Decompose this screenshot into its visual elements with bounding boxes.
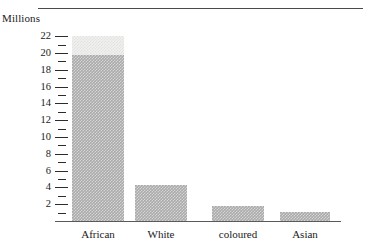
y-axis-tick-label: 12 <box>27 115 51 125</box>
x-axis-category-label: Asian <box>266 228 344 241</box>
y-axis-major-tick <box>55 187 68 188</box>
y-axis-tick-label: 8 <box>27 149 51 159</box>
bar-fill <box>72 55 124 221</box>
y-axis-major-tick <box>55 204 68 205</box>
bar <box>72 36 124 221</box>
y-axis-tick-label: 20 <box>27 48 51 58</box>
y-axis-tick-label: 22 <box>27 31 51 41</box>
y-axis-minor-tick <box>58 45 66 46</box>
bar-fill-light-cap <box>72 36 124 54</box>
x-axis-category-label: White <box>121 228 201 241</box>
bar <box>280 212 330 221</box>
y-axis-minor-tick <box>58 179 66 180</box>
y-axis-major-tick <box>55 53 68 54</box>
y-axis-major-tick <box>55 36 68 37</box>
bar-chart-plot-area: 246810121416182022 AfricanWhitecolouredA… <box>0 0 376 251</box>
y-axis-tick-label: 18 <box>27 65 51 75</box>
bar-fill <box>280 212 330 221</box>
y-axis-tick-label: 6 <box>27 166 51 176</box>
y-axis-minor-tick <box>58 196 66 197</box>
y-axis-minor-tick <box>58 129 66 130</box>
y-axis-tick-label: 10 <box>27 132 51 142</box>
y-axis-major-tick <box>55 154 68 155</box>
y-axis-major-tick <box>55 103 68 104</box>
y-axis-tick-label: 4 <box>27 182 51 192</box>
y-axis-tick-label: 2 <box>27 199 51 209</box>
x-axis-line <box>55 221 341 222</box>
y-axis-minor-tick <box>58 213 66 214</box>
bar-fill <box>212 206 264 221</box>
y-axis-major-tick <box>55 120 68 121</box>
bar-fill <box>135 185 187 221</box>
bar <box>135 185 187 221</box>
y-axis-major-tick <box>55 171 68 172</box>
y-axis-minor-tick <box>58 112 66 113</box>
y-axis-minor-tick <box>58 145 66 146</box>
y-axis-major-tick <box>55 87 68 88</box>
y-axis-tick-label: 14 <box>27 98 51 108</box>
y-axis-minor-tick <box>58 78 66 79</box>
y-axis-minor-tick <box>58 162 66 163</box>
y-axis-minor-tick <box>58 95 66 96</box>
y-axis-tick-label: 16 <box>27 82 51 92</box>
bar <box>212 206 264 221</box>
y-axis-major-tick <box>55 70 68 71</box>
y-axis-minor-tick <box>58 61 66 62</box>
y-axis-major-tick <box>55 137 68 138</box>
